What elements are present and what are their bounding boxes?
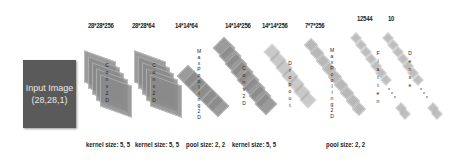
layer-7-shape: 12544 xyxy=(357,15,372,22)
layer-4-shape: 14*14*256 xyxy=(225,22,251,29)
layer-7-type: Flatten xyxy=(374,50,381,106)
input-shape: (28,28,1) xyxy=(31,94,67,106)
layer-5-type: Dropout xyxy=(286,60,293,109)
layer-2-type: Conv2D xyxy=(150,62,157,104)
layer-4-type: Conv2D xyxy=(240,65,247,107)
layer-5-shape: 14*14*256 xyxy=(262,22,288,29)
layer-1-param: kernel size: 5, 5 xyxy=(86,141,130,148)
layer-6-shape: 7*7*256 xyxy=(305,22,324,29)
layer-8-type: Dense xyxy=(406,50,413,90)
layer-2-param: kernel size: 5, 5 xyxy=(135,141,179,148)
layer-2-shape: 28*28*64 xyxy=(132,22,154,29)
layer-3-shape: 14*14*64 xyxy=(175,22,197,29)
layer-3-type: MaxPooling2D xyxy=(195,48,202,120)
layer-3-param: pool size: 2, 2 xyxy=(186,141,225,148)
layer-4-param: kernel size: 5, 5 xyxy=(232,141,276,148)
layer-1-type: Conv2D xyxy=(103,62,110,104)
layer-1-shape: 28*28*256 xyxy=(88,22,114,29)
layer-6-type: MaxPooling2D xyxy=(328,47,335,119)
layer-8-shape: 10 xyxy=(388,15,394,22)
input-label: Input Image xyxy=(26,82,74,94)
input-image-box: Input Image (28,28,1) xyxy=(23,60,76,128)
layer-6-param: pool size: 2, 2 xyxy=(326,141,365,148)
